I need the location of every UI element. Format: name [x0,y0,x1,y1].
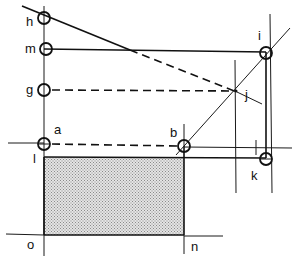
label-i: i [258,28,261,43]
label-j: j [244,87,248,102]
label-k: k [251,168,258,183]
vertical-j [235,60,236,193]
label-h: h [26,14,33,29]
label-b: b [170,125,177,140]
label-o: o [27,237,34,252]
vertical-i-k [270,14,272,193]
label-g: g [26,82,33,97]
rect-top-edge [44,157,266,158]
line-h-solid [22,6,130,50]
label-n: n [191,239,198,254]
line-o-extension [6,234,44,235]
label-m: m [25,41,36,56]
line-j-extension [237,92,262,104]
label-a: a [54,122,62,137]
line-g-j-dashed [52,90,237,91]
point-j-marker [235,90,238,93]
label-l: l [33,151,36,166]
construction-diagram: h m g a i j b k l o n [0,0,295,263]
shaded-rectangle [44,157,184,235]
line-a-b-dashed [52,144,178,146]
line-m-i [44,49,266,52]
diagonal-b-i [176,28,290,155]
line-h-dashed [130,50,237,92]
line-b-horizontal [184,147,292,148]
